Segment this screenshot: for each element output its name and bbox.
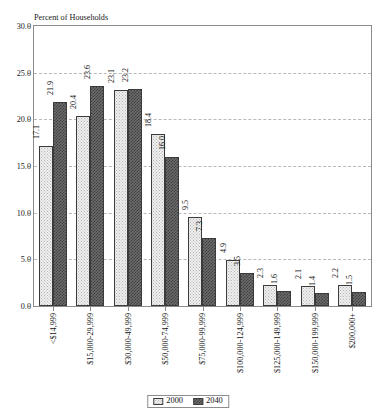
bar-value-label: 2.3 [257,268,265,278]
bar-value-label: 16.0 [159,136,167,150]
y-axis-tick-labels: 0.05.010.015.020.025.030.0 [0,25,31,307]
bar-value-label: 1.5 [346,275,354,285]
bar-value: 23.6 [89,73,97,87]
x-axis-label-slot: <$14,999 [36,311,70,389]
bar-value: 3.5 [239,264,247,274]
y-axis-tick-mark [27,119,31,120]
bar-value-label: 23.6 [84,65,92,79]
y-axis-tick-mark [27,213,31,214]
x-axis-label-slot: $100,000-124,999 [223,311,257,389]
legend-item-2000[interactable]: 2000 [153,397,183,405]
y-axis-tick-mark [27,306,31,307]
y-axis-tick-mark [27,26,31,27]
bar-value-label: 23.1 [108,69,116,83]
bar-2000-3[interactable]: 18.4 [151,134,165,306]
bar-value-label: 3.5 [234,256,242,266]
bar-value-label: 9.5 [182,200,190,210]
bar-group: 9.57.3 [188,26,216,306]
bar-2040-3[interactable]: 16.0 [165,157,179,306]
y-axis-title: Percent of Households [34,13,108,22]
bar-value-label: 7.3 [196,221,204,231]
chart-title [0,0,376,1]
bar-value: 9.5 [187,208,195,218]
y-axis-tick-mark [27,73,31,74]
x-axis-label-slot: $150,000-199,999 [298,311,332,389]
legend-label: 2000 [166,397,183,405]
bar-value: 2.1 [300,277,308,287]
bar-2000-1[interactable]: 20.4 [76,116,90,306]
bar-group: 20.423.6 [76,26,104,306]
bar-value: 7.3 [201,229,209,239]
bar-2040-8[interactable]: 1.5 [352,292,366,306]
chart-legend: 2000 2040 [147,395,229,408]
x-axis-label-slot: $15,000-29,999 [73,311,107,389]
bar-2040-4[interactable]: 7.3 [202,238,216,306]
x-axis-label-slot: $200,000+ [335,311,369,389]
bar-value: 16.0 [164,144,172,158]
dark-checker-swatch-icon [193,398,203,405]
light-dotted-swatch-icon [153,398,163,405]
bar-2000-5[interactable]: 4.9 [226,260,240,306]
bar-value-label: 20.4 [70,95,78,109]
x-axis-tick-label: $125,000-149,999 [273,313,282,373]
x-axis-category-labels: <$14,999$15,000-29,999$30,000-49,999$50,… [34,311,371,389]
bar-group: 2.21.5 [338,26,366,306]
bar-value: 18.4 [150,121,158,135]
x-axis-tick-label: $30,000-49,999 [123,313,132,365]
x-axis-label-slot: $125,000-149,999 [260,311,294,389]
bar-2000-0[interactable]: 17.1 [39,146,53,306]
x-axis-tick-label: $100,000-124,999 [235,313,244,373]
bar-2040-6[interactable]: 1.6 [277,291,291,306]
x-axis-tick-label: <$14,999 [48,313,57,344]
bar-value-label: 17.1 [33,125,41,139]
bar-2040-1[interactable]: 23.6 [90,86,104,306]
bar-value: 1.6 [276,282,284,292]
y-axis-tick-mark [27,259,31,260]
bar-value: 20.4 [75,103,83,117]
bar-2040-5[interactable]: 3.5 [240,273,254,306]
bars-layer: 17.121.920.423.623.123.218.416.09.57.34.… [34,26,371,306]
bar-value-label: 1.6 [271,274,279,284]
bar-value: 21.9 [52,89,60,103]
bar-value-label: 4.9 [220,243,228,253]
bar-group: 23.123.2 [114,26,142,306]
bar-group: 2.11.4 [301,26,329,306]
legend-label: 2040 [206,397,223,405]
bar-2000-2[interactable]: 23.1 [114,90,128,306]
bar-2040-0[interactable]: 21.9 [53,102,67,306]
x-axis-tick-label: $200,000+ [348,313,357,348]
x-axis-tick-label: $150,000-199,999 [310,313,319,373]
x-axis-tick-label: $15,000-29,999 [86,313,95,365]
bar-group: 18.416.0 [151,26,179,306]
bar-value: 1.5 [351,283,359,293]
legend-item-2040[interactable]: 2040 [193,397,223,405]
bar-2040-7[interactable]: 1.4 [315,293,329,306]
y-axis-tick-mark [27,166,31,167]
x-axis-label-slot: $50,000-74,999 [148,311,182,389]
bar-value-label: 2.2 [332,268,340,278]
bar-group: 4.93.5 [226,26,254,306]
bar-group: 2.31.6 [263,26,291,306]
bar-value: 23.1 [113,77,121,91]
bar-value: 4.9 [225,251,233,261]
bar-chart: Percent of Households 0.05.010.015.020.0… [0,0,376,419]
x-axis-tick-label: $50,000-74,999 [161,313,170,365]
bar-value-label: 21.9 [47,81,55,95]
bar-value: 23.2 [127,76,135,90]
bar-value-label: 18.4 [145,113,153,127]
bar-value: 1.4 [314,284,322,294]
bar-value-label: 1.4 [309,276,317,286]
bar-2000-7[interactable]: 2.1 [301,286,315,306]
x-axis-tick-label: $75,000-99,999 [198,313,207,365]
bar-value-label: 2.1 [295,269,303,279]
bar-value: 17.1 [38,133,46,147]
bar-2040-2[interactable]: 23.2 [128,89,142,306]
bar-value-label: 23.2 [122,68,130,82]
x-axis-label-slot: $30,000-49,999 [111,311,145,389]
x-axis-label-slot: $75,000-99,999 [185,311,219,389]
bar-group: 17.121.9 [39,26,67,306]
